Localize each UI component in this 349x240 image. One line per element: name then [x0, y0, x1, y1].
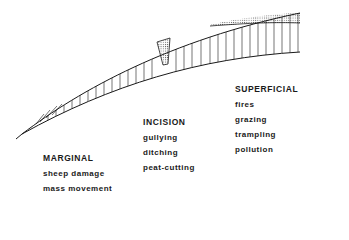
incision-item: ditching — [143, 145, 195, 160]
incision-label-group: INCISION gullying ditching peat-cutting — [143, 115, 195, 175]
superficial-item: trampling — [235, 127, 298, 142]
incision-item: peat-cutting — [143, 160, 195, 175]
incision-item: gullying — [143, 130, 195, 145]
superficial-heading: SUPERFICIAL — [235, 82, 298, 97]
gully-incision — [157, 38, 170, 65]
marginal-heading: MARGINAL — [43, 151, 112, 166]
superficial-label-group: SUPERFICIAL fires grazing trampling poll… — [235, 82, 298, 157]
slope-tail-line — [16, 134, 22, 139]
incision-heading: INCISION — [143, 115, 195, 130]
marginal-label-group: MARGINAL sheep damage mass movement — [43, 151, 112, 196]
superficial-item: fires — [235, 97, 298, 112]
superficial-item: grazing — [235, 112, 298, 127]
marginal-item: sheep damage — [43, 166, 112, 181]
marginal-item: mass movement — [43, 181, 112, 196]
superficial-item: pollution — [235, 142, 298, 157]
